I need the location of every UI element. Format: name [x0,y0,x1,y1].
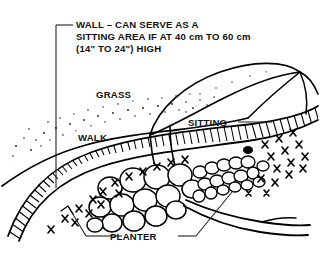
wall-callout-line3: (14" TO 24") HIGH [76,43,161,54]
walk-label: WALK [78,132,107,143]
sitting-label: SITTING [188,117,227,128]
wall-callout-line1: WALL – CAN SERVE AS A [76,19,199,30]
dark-stone [243,146,253,154]
wall-callout-line2: SITTING AREA IF AT 40 cm TO 60 cm [76,31,251,42]
grass-label: GRASS [96,89,132,100]
diagram-canvas: WALL – CAN SERVE AS A SITTING AREA IF AT… [0,0,321,259]
planter-label: PLANTER [110,231,157,242]
landscape-section-drawing: WALL – CAN SERVE AS A SITTING AREA IF AT… [0,0,321,259]
